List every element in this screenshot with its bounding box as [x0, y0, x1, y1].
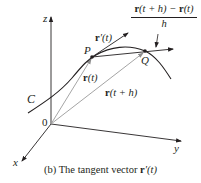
- position-vector-r-t: [51, 59, 91, 124]
- position-vector-r-t-label: r(t): [83, 73, 98, 84]
- origin-label: 0: [42, 117, 48, 128]
- figure-caption: (b) The tangent vector r′(t): [0, 164, 201, 175]
- difference-quotient-denominator: h: [131, 18, 197, 30]
- point-q-label: Q: [141, 55, 149, 66]
- secant-vector: [92, 49, 173, 57]
- y-axis-label: y: [174, 143, 179, 154]
- tangent-vector-label: r′(t): [95, 33, 112, 44]
- position-vector-r-t-plus-h-label: r(t + h): [105, 88, 137, 99]
- point-p-label: P: [84, 45, 91, 56]
- y-axis: [51, 124, 181, 141]
- label-leader-arrow: [156, 34, 158, 47]
- difference-quotient-numerator: r(t + h) − r(t): [131, 4, 197, 18]
- point-q-dot: [143, 49, 147, 53]
- curve-c-label: C: [27, 93, 35, 105]
- difference-quotient-label: r(t + h) − r(t) h: [131, 4, 197, 29]
- curve-c: [28, 47, 171, 113]
- z-axis-label: z: [43, 13, 47, 24]
- x-axis: [22, 124, 51, 161]
